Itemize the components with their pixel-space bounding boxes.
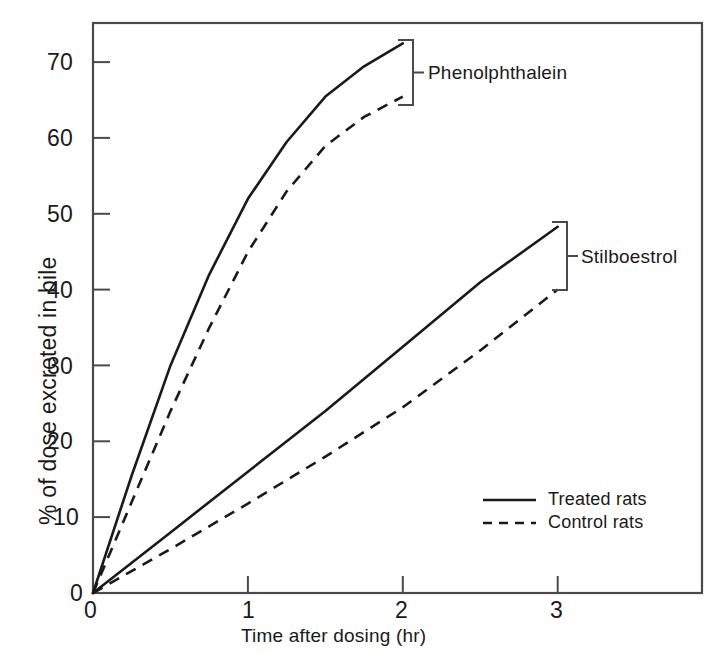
series-line-phenolphthalein-treated	[93, 43, 403, 593]
series-line-phenolphthalein-control	[93, 97, 403, 593]
bracket-stilboestrol	[552, 222, 578, 290]
plot-area	[0, 0, 721, 656]
x-axis-ticks	[248, 576, 558, 593]
legend-sample-lines	[483, 500, 536, 523]
series-line-stilboestrol-treated	[93, 227, 558, 593]
x-tick-label-2: 2	[395, 597, 408, 624]
y-axis-ticks	[93, 62, 110, 517]
y-tick-label-0: 0	[70, 580, 83, 607]
annotation-stilboestrol: Stilboestrol	[581, 246, 677, 268]
x-axis-label: Time after dosing (hr)	[241, 625, 426, 647]
chart-figure: 70 60 50 40 30 20 10 0 0 1 2 3 % of dose…	[0, 0, 721, 656]
y-tick-label-70: 70	[47, 49, 73, 76]
y-tick-label-50: 50	[47, 201, 73, 228]
x-tick-label-0: 0	[84, 597, 97, 624]
x-tick-label-3: 3	[550, 597, 563, 624]
legend-label-treated-rats: Treated rats	[548, 489, 647, 510]
legend-label-control-rats: Control rats	[548, 512, 643, 533]
y-axis-label: % of dose excreted in bile	[35, 256, 62, 525]
bracket-phenolphthalein	[398, 40, 424, 105]
y-tick-label-60: 60	[47, 125, 73, 152]
annotation-phenolphthalein: Phenolphthalein	[428, 62, 567, 84]
series-line-stilboestrol-control	[93, 290, 558, 593]
x-tick-label-1: 1	[242, 597, 255, 624]
